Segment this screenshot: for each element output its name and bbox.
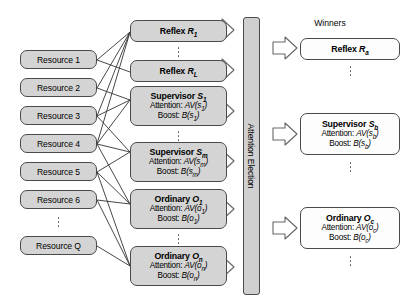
winner-boost-line: Boost: B(sb)	[329, 139, 371, 150]
winner-title-prefix: Reflex	[331, 44, 359, 54]
winner-title-sub: a	[365, 49, 368, 56]
behavior-boost-line: Boost: B(sm)	[157, 167, 200, 178]
behavior-ellipsis-3	[171, 231, 186, 247]
behavior-title-prefix: Ordinary	[154, 251, 192, 261]
boost-label: Boost:	[329, 139, 353, 148]
winner-boost-line: Boost: B(oc)	[329, 233, 371, 244]
behavior-attention-line: Attention: AV(s1)	[150, 101, 207, 112]
arrow-out-of-election-3	[273, 217, 297, 239]
behavior-title-symbol: O	[192, 251, 199, 261]
winner-title-symbol: O	[364, 213, 371, 223]
resource-label: Resource 5	[37, 167, 80, 177]
attention-election-diagram: Resource 1 Resource 2 Resource 3 Resourc…	[0, 0, 408, 307]
boost-label: Boost:	[157, 167, 181, 176]
winner-node-supervisor[interactable]: Supervisor Sb Attention: AV(sb) Boost: B…	[300, 113, 400, 155]
behavior-node-supervisor-1[interactable]: Supervisor S1 Attention: AV(s1) Boost: B…	[130, 86, 227, 126]
attention-label: Attention:	[150, 261, 185, 270]
winner-node-ordinary[interactable]: Ordinary Oc Attention: AV(oc) Boost: B(o…	[300, 207, 400, 249]
resource-label: Resource 2	[37, 83, 80, 93]
attention-label: Attention:	[149, 157, 184, 166]
attention-fn: AV	[184, 261, 194, 270]
resource-node-2[interactable]: Resource 2	[20, 78, 97, 97]
attention-election-label: Attention Election	[246, 123, 256, 188]
attention-fn: AV	[184, 204, 194, 213]
resource-label: Resource 1	[37, 55, 80, 65]
boost-label: Boost:	[158, 111, 182, 120]
attention-fn: AV	[184, 157, 194, 166]
winner-title: Supervisor Sb	[322, 119, 378, 129]
boost-label: Boost:	[329, 233, 353, 242]
winner-ellipsis-2	[343, 158, 358, 176]
behavior-attention-line: Attention: AV(o1)	[150, 204, 208, 215]
behavior-title: Supervisor Sm	[149, 147, 207, 157]
behavior-title-prefix: Reflex	[160, 26, 188, 36]
resource-label: Resource 4	[37, 139, 80, 149]
winner-title-prefix: Ordinary	[326, 213, 364, 223]
boost-label: Boost:	[157, 214, 181, 223]
behavior-title: Ordinary O1	[155, 194, 203, 204]
winner-title-prefix: Supervisor	[322, 119, 369, 129]
behavior-node-reflex-l[interactable]: Reflex RL	[130, 60, 227, 82]
winner-ellipsis-1	[343, 62, 358, 80]
resource-node-1[interactable]: Resource 1	[20, 50, 97, 69]
resource-label: Resource 3	[37, 111, 80, 121]
boost-label: Boost:	[157, 271, 181, 280]
behavior-boost-line: Boost: B(s1)	[158, 111, 200, 122]
behavior-title-sub: L	[194, 71, 198, 78]
attention-label: Attention:	[321, 129, 356, 138]
behavior-title: Supervisor S1	[151, 91, 207, 101]
winner-attention-line: Attention: AV(oc)	[321, 223, 378, 234]
behavior-boost-line: Boost: B(on)	[157, 271, 199, 282]
behavior-node-ordinary-n[interactable]: Ordinary On Attention: AV(on) Boost: B(o…	[130, 246, 227, 286]
behavior-title-prefix: Supervisor	[149, 147, 196, 157]
behavior-node-ordinary-1[interactable]: Ordinary O1 Attention: AV(o1) Boost: B(o…	[130, 189, 227, 229]
resource-node-6[interactable]: Resource 6	[20, 190, 97, 209]
behavior-title-sub: 1	[194, 31, 197, 38]
behavior-title: Ordinary On	[154, 251, 202, 261]
behavior-node-reflex-1[interactable]: Reflex R1	[130, 20, 227, 42]
behavior-attention-line: Attention: AV(sm)	[149, 157, 208, 168]
winner-node-reflex[interactable]: Reflex Ra	[300, 38, 400, 60]
resource-label: Resource Q	[36, 241, 81, 251]
resource-node-3[interactable]: Resource 3	[20, 106, 97, 125]
resource-node-q[interactable]: Resource Q	[20, 236, 97, 255]
attention-label: Attention:	[150, 101, 185, 110]
behavior-title-prefix: Reflex	[160, 66, 188, 76]
winner-title: Reflex Ra	[331, 44, 368, 54]
attention-fn: AV	[356, 223, 366, 232]
behavior-title-prefix: Supervisor	[151, 91, 198, 101]
behavior-ellipsis-2	[171, 128, 186, 144]
behavior-node-supervisor-m[interactable]: Supervisor Sm Attention: AV(sm) Boost: B…	[130, 142, 227, 182]
attention-fn: AV	[185, 101, 195, 110]
behavior-attention-line: Attention: AV(on)	[150, 261, 208, 272]
behavior-title: Reflex RL	[160, 66, 198, 76]
behavior-title-prefix: Ordinary	[155, 194, 193, 204]
resource-node-4[interactable]: Resource 4	[20, 134, 97, 153]
resource-node-5[interactable]: Resource 5	[20, 162, 97, 181]
arrow-out-of-election-2	[273, 123, 297, 145]
winner-title: Ordinary Oc	[326, 213, 374, 223]
resource-label: Resource 6	[37, 195, 80, 205]
behavior-ellipsis-1	[171, 44, 186, 60]
arrow-out-of-election-1	[273, 37, 297, 59]
attention-label: Attention:	[150, 204, 185, 213]
behavior-boost-line: Boost: B(o1)	[157, 214, 199, 225]
behavior-title: Reflex R1	[160, 26, 197, 36]
resource-ellipsis	[51, 212, 66, 232]
winners-header: Winners	[314, 18, 346, 28]
attention-fn: AV	[356, 129, 366, 138]
attention-label: Attention:	[321, 223, 356, 232]
winner-ellipsis-3	[343, 252, 358, 270]
winner-attention-line: Attention: AV(sb)	[321, 129, 378, 140]
